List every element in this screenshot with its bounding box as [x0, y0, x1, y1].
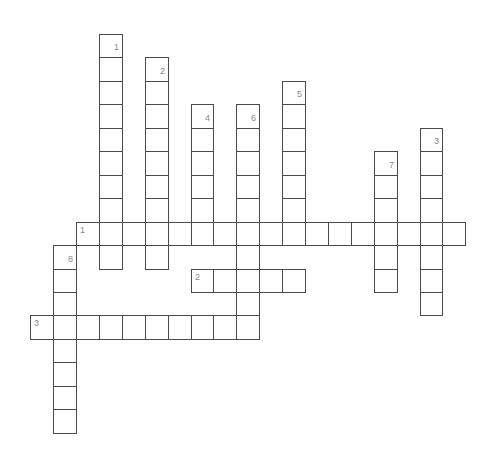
grid-cell[interactable] [145, 128, 169, 152]
grid-cell[interactable] [76, 315, 100, 340]
grid-cell[interactable] [191, 128, 214, 152]
grid-cell[interactable] [420, 151, 443, 176]
grid-cell[interactable] [282, 222, 306, 246]
grid-cell[interactable] [191, 198, 214, 223]
grid-cell[interactable] [374, 198, 398, 223]
grid-cell[interactable] [53, 362, 77, 387]
grid-cell[interactable] [99, 198, 123, 223]
clue-number-down-8: 8 [68, 255, 73, 264]
grid-cell[interactable] [145, 245, 169, 270]
grid-cell[interactable] [236, 175, 260, 199]
grid-cell[interactable] [122, 315, 146, 340]
grid-cell[interactable] [191, 151, 214, 176]
grid-cell[interactable] [420, 269, 443, 293]
grid-cell[interactable] [374, 222, 398, 246]
grid-cell[interactable] [53, 339, 77, 363]
grid-cell[interactable] [374, 245, 398, 270]
grid-cell[interactable] [191, 315, 214, 340]
grid-cell[interactable] [282, 269, 306, 293]
grid-cell[interactable] [420, 222, 443, 246]
grid-cell[interactable] [374, 269, 398, 293]
grid-cell[interactable] [259, 222, 283, 246]
grid-cell[interactable] [236, 245, 260, 270]
grid-cell[interactable]: 1 [99, 34, 123, 58]
grid-cell[interactable] [397, 222, 421, 246]
grid-cell[interactable] [305, 222, 329, 246]
clue-number-down-4: 4 [205, 114, 210, 123]
grid-cell[interactable] [420, 198, 443, 223]
grid-cell[interactable] [168, 222, 192, 246]
grid-cell[interactable]: 3 [30, 315, 54, 340]
grid-cell[interactable] [282, 104, 306, 129]
grid-cell[interactable] [53, 269, 77, 293]
grid-cell[interactable]: 1 [76, 222, 100, 246]
grid-cell[interactable] [236, 315, 260, 340]
grid-cell[interactable] [99, 222, 123, 246]
grid-cell[interactable]: 2 [191, 269, 214, 293]
grid-cell[interactable]: 4 [191, 104, 214, 129]
grid-cell[interactable] [99, 57, 123, 82]
grid-cell[interactable]: 5 [282, 81, 306, 105]
grid-cell[interactable] [99, 151, 123, 176]
grid-cell[interactable] [145, 151, 169, 176]
grid-cell[interactable] [420, 175, 443, 199]
grid-cell[interactable] [328, 222, 352, 246]
grid-cell[interactable] [145, 175, 169, 199]
grid-cell[interactable] [122, 222, 146, 246]
grid-cell[interactable] [236, 292, 260, 316]
clue-number-down-3: 3 [434, 137, 439, 146]
clue-number-across-1: 1 [80, 226, 85, 235]
grid-cell[interactable]: 8 [53, 245, 77, 270]
grid-cell[interactable] [53, 315, 77, 340]
grid-cell[interactable] [191, 175, 214, 199]
grid-cell[interactable] [53, 386, 77, 410]
grid-cell[interactable] [53, 292, 77, 316]
grid-cell[interactable] [99, 128, 123, 152]
grid-cell[interactable] [236, 222, 260, 246]
grid-cell[interactable] [168, 315, 192, 340]
grid-cell[interactable] [145, 315, 169, 340]
grid-cell[interactable] [213, 269, 237, 293]
grid-cell[interactable] [145, 222, 169, 246]
clue-number-down-1: 1 [114, 43, 119, 52]
grid-cell[interactable] [99, 104, 123, 129]
grid-cell[interactable] [236, 128, 260, 152]
grid-cell[interactable]: 2 [145, 57, 169, 82]
grid-cell[interactable] [374, 175, 398, 199]
grid-cell[interactable] [236, 151, 260, 176]
grid-cell[interactable] [213, 315, 237, 340]
grid-cell[interactable] [282, 128, 306, 152]
grid-cell[interactable] [99, 175, 123, 199]
grid-cell[interactable] [236, 198, 260, 223]
clue-number-down-2: 2 [160, 67, 165, 76]
grid-cell[interactable] [145, 104, 169, 129]
grid-cell[interactable] [213, 222, 237, 246]
crossword-grid: 12312465738 [0, 0, 492, 449]
clue-number-down-5: 5 [297, 90, 302, 99]
grid-cell[interactable] [145, 81, 169, 105]
grid-cell[interactable] [420, 292, 443, 316]
clue-number-across-2: 2 [195, 273, 200, 282]
grid-cell[interactable] [145, 198, 169, 223]
grid-cell[interactable] [282, 198, 306, 223]
grid-cell[interactable]: 3 [420, 128, 443, 152]
grid-cell[interactable] [442, 222, 466, 246]
grid-cell[interactable] [191, 222, 214, 246]
clue-number-down-6: 6 [251, 114, 256, 123]
grid-cell[interactable] [99, 245, 123, 270]
grid-cell[interactable] [259, 269, 283, 293]
grid-cell[interactable]: 6 [236, 104, 260, 129]
grid-cell[interactable] [351, 222, 375, 246]
grid-cell[interactable] [236, 269, 260, 293]
grid-cell[interactable] [282, 175, 306, 199]
grid-cell[interactable] [282, 151, 306, 176]
grid-cell[interactable]: 7 [374, 151, 398, 176]
clue-number-across-3: 3 [34, 319, 39, 328]
grid-cell[interactable] [99, 315, 123, 340]
grid-cell[interactable] [420, 245, 443, 270]
clue-number-down-7: 7 [389, 161, 394, 170]
grid-cell[interactable] [99, 81, 123, 105]
grid-cell[interactable] [53, 409, 77, 434]
